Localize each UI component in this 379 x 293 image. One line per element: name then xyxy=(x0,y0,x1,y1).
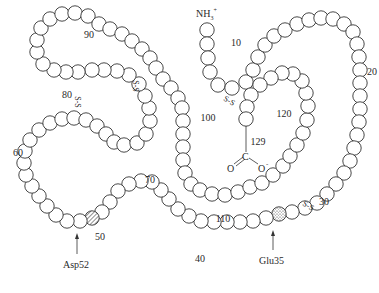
residue xyxy=(110,64,124,78)
residue-number-60: 60 xyxy=(13,147,23,158)
residue xyxy=(200,23,214,37)
residue xyxy=(211,78,225,92)
lysozyme-diagram: NH3+ C O O - Glu35 Asp52 102030405060708… xyxy=(0,0,379,293)
c-terminus-carboxylate: C O O - xyxy=(227,126,269,174)
residue-number-20: 20 xyxy=(367,66,377,77)
residue xyxy=(200,37,214,51)
residue xyxy=(353,63,367,77)
disulfide-bond-3: S-S xyxy=(73,96,82,108)
residue xyxy=(347,141,361,155)
residue xyxy=(233,215,247,229)
glu35-label: Glu35 xyxy=(259,255,284,266)
asp52-pointer: Asp52 xyxy=(63,233,89,270)
residue xyxy=(201,51,215,65)
residue xyxy=(68,6,82,20)
residue-number-40: 40 xyxy=(195,253,205,264)
residue-number-100: 100 xyxy=(201,112,216,123)
residue xyxy=(285,205,299,219)
n-terminus-label: NH3+ xyxy=(196,7,217,21)
residue xyxy=(259,211,273,225)
residue xyxy=(175,101,189,115)
residue-number-120: 120 xyxy=(277,108,292,119)
residue-number-labels: 102030405060708090100110120129 xyxy=(13,29,377,264)
residue-number-80: 80 xyxy=(62,89,72,100)
glu35-pointer: Glu35 xyxy=(259,230,284,266)
residue xyxy=(353,76,367,90)
residue xyxy=(300,113,314,127)
residue-number-129: 129 xyxy=(251,136,266,147)
carbon-label: C xyxy=(242,151,249,162)
asp52-label: Asp52 xyxy=(63,259,89,270)
residue xyxy=(73,214,87,228)
residue xyxy=(246,63,260,77)
residue-number-30: 30 xyxy=(319,196,329,207)
residue xyxy=(176,153,190,167)
residue xyxy=(176,114,190,128)
residue xyxy=(218,188,232,202)
residue xyxy=(239,112,253,126)
residue xyxy=(55,7,69,21)
residue xyxy=(176,140,190,154)
residue xyxy=(143,114,157,128)
residue-number-110: 110 xyxy=(216,213,231,224)
disulfide-bond-1: S-S xyxy=(222,94,237,108)
residue xyxy=(225,81,239,95)
negative-charge-label: - xyxy=(266,160,269,168)
residue xyxy=(205,187,219,201)
residue-number-50: 50 xyxy=(95,231,105,242)
residue xyxy=(139,127,153,141)
residue xyxy=(353,89,367,103)
residue xyxy=(353,102,367,116)
residue-chain xyxy=(17,6,367,229)
residue xyxy=(350,128,364,142)
residue xyxy=(85,63,99,77)
residue xyxy=(350,37,364,51)
oxygen-label-1: O xyxy=(227,163,234,174)
residue-number-10: 10 xyxy=(231,37,241,48)
residue xyxy=(246,214,260,228)
residue xyxy=(352,115,366,129)
residue xyxy=(301,99,315,113)
disulfide-bond-4: S-S xyxy=(131,80,140,92)
residue xyxy=(203,65,217,79)
residue xyxy=(352,50,366,64)
residue-glu35 xyxy=(272,207,286,221)
oxygen-label-2: O xyxy=(258,163,265,174)
residue xyxy=(176,127,190,141)
residue-number-90: 90 xyxy=(84,29,94,40)
residue-number-70: 70 xyxy=(145,174,155,185)
residue xyxy=(296,126,310,140)
residue xyxy=(117,138,131,152)
